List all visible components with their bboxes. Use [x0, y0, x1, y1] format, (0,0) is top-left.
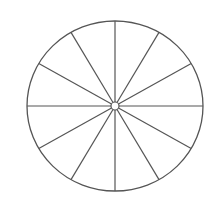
spoke-line — [71, 32, 113, 102]
spoke-line — [71, 109, 113, 179]
center-hub — [111, 102, 119, 110]
spoke-line — [39, 108, 112, 149]
spoke-line — [117, 32, 159, 102]
segmented-circle-diagram — [0, 0, 219, 214]
spoke-line — [118, 108, 191, 149]
spoke-line — [118, 64, 191, 105]
spoke-line — [117, 109, 159, 179]
spoke-line — [39, 64, 112, 105]
